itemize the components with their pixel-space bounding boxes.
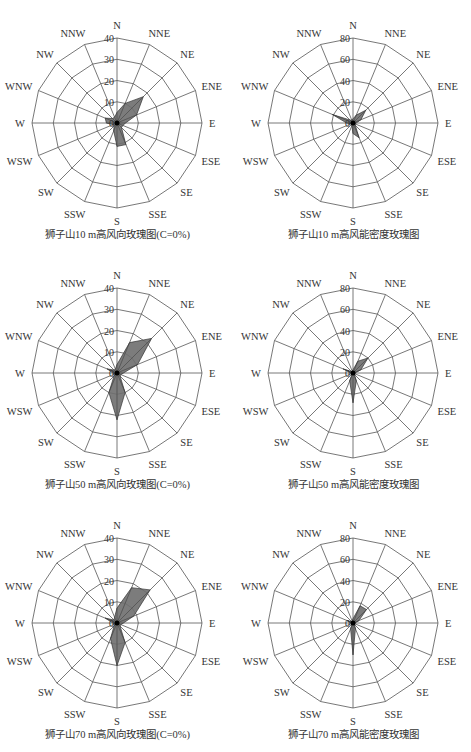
rose-chart-svg: 020406080NNNENEENEEESESESSESSSWSWWSWWWNW… — [236, 500, 471, 750]
direction-label: WSW — [243, 406, 269, 417]
direction-label: ESE — [438, 156, 457, 167]
ring-label: 0 — [109, 368, 114, 379]
direction-label: SSE — [385, 709, 403, 720]
rose-10m-energy: 020406080NNNENEENEEESESESSESSSWSWWSWWWNW… — [236, 0, 471, 250]
direction-label: ENE — [438, 581, 458, 592]
direction-label: N — [113, 20, 121, 31]
direction-label: NE — [416, 299, 430, 310]
direction-label: WNW — [5, 81, 32, 92]
direction-label: NNE — [385, 278, 407, 289]
direction-label: SE — [416, 187, 428, 198]
ring-label: 20 — [104, 76, 114, 87]
direction-label: ESE — [438, 656, 457, 667]
direction-label: SW — [274, 187, 290, 198]
direction-label: SSW — [64, 209, 86, 220]
ring-label: 0 — [345, 368, 350, 379]
chart-caption: 狮子山50 m高风能密度玫瑰图 — [236, 476, 471, 491]
center-dot — [351, 371, 356, 376]
chart-caption: 狮子山70 m高风向玫瑰图(C=0%) — [0, 726, 235, 741]
ring-label: 0 — [109, 618, 114, 629]
direction-label: NNW — [60, 278, 85, 289]
direction-label: WNW — [5, 331, 32, 342]
direction-label: ESE — [202, 656, 221, 667]
center-dot — [351, 121, 356, 126]
direction-label: N — [349, 520, 357, 531]
center-dot — [115, 621, 120, 626]
direction-label: NW — [36, 299, 54, 310]
direction-label: WNW — [241, 581, 268, 592]
ring-label: 40 — [340, 76, 350, 87]
direction-label: W — [15, 618, 25, 629]
ring-label: 40 — [340, 576, 350, 587]
direction-label: WSW — [7, 656, 33, 667]
ring-label: 40 — [104, 283, 114, 294]
rose-chart-svg: 020406080NNNENEENEEESESESSESSSWSWWSWWWNW… — [236, 0, 471, 250]
direction-label: NNW — [60, 528, 85, 539]
direction-label: ESE — [202, 406, 221, 417]
direction-label: ESE — [202, 156, 221, 167]
rose-chart-svg: 020406080NNNENEENEEESESESSESSSWSWWSWWWNW… — [236, 250, 471, 500]
direction-label: SW — [38, 187, 54, 198]
ring-label: 20 — [340, 347, 350, 358]
ring-label: 20 — [340, 597, 350, 608]
rose-50m-energy: 020406080NNNENEENEEESESESSESSSWSWWSWWWNW… — [236, 250, 471, 500]
direction-label: E — [209, 368, 215, 379]
ring-label: 10 — [104, 597, 114, 608]
direction-label: W — [251, 368, 261, 379]
direction-label: E — [445, 368, 451, 379]
chart-caption: 狮子山10 m高风向玫瑰图(C=0%) — [0, 226, 235, 241]
direction-label: SSW — [300, 209, 322, 220]
ring-label: 40 — [104, 33, 114, 44]
direction-label: SSW — [300, 459, 322, 470]
direction-label: NW — [272, 549, 290, 560]
direction-label: E — [209, 618, 215, 629]
direction-label: SE — [180, 187, 192, 198]
direction-label: NNE — [385, 28, 407, 39]
direction-label: W — [15, 368, 25, 379]
direction-label: N — [113, 520, 121, 531]
ring-label: 20 — [340, 97, 350, 108]
ring-label: 60 — [340, 304, 350, 315]
rose-chart-svg: 010203040NNNENEENEEESESESSESSSWSWWSWWWNW… — [0, 250, 235, 500]
direction-label: SSW — [64, 709, 86, 720]
direction-label: NE — [416, 49, 430, 60]
ring-label: 60 — [340, 554, 350, 565]
ring-label: 30 — [104, 554, 114, 565]
direction-label: N — [349, 20, 357, 31]
ring-label: 80 — [340, 33, 350, 44]
direction-label: N — [349, 270, 357, 281]
direction-label: NE — [416, 549, 430, 560]
direction-label: ENE — [438, 331, 458, 342]
direction-label: SSE — [149, 209, 167, 220]
direction-label: SSE — [149, 459, 167, 470]
direction-label: NNE — [149, 28, 171, 39]
ring-label: 0 — [345, 618, 350, 629]
rose-70m-energy: 020406080NNNENEENEEESESESSESSSWSWWSWWWNW… — [236, 500, 471, 750]
direction-label: E — [445, 118, 451, 129]
direction-label: W — [251, 118, 261, 129]
ring-label: 40 — [340, 326, 350, 337]
direction-label: NNE — [149, 528, 171, 539]
direction-label: SW — [38, 687, 54, 698]
direction-label: E — [445, 618, 451, 629]
direction-label: WSW — [243, 656, 269, 667]
direction-label: SSE — [149, 709, 167, 720]
direction-label: WSW — [7, 156, 33, 167]
rose-chart-svg: 010203040NNNENEENEEESESESSESSSWSWWSWWWNW… — [0, 500, 235, 750]
direction-label: SE — [416, 687, 428, 698]
rose-data-area — [343, 358, 368, 403]
direction-label: SE — [180, 687, 192, 698]
direction-label: ESE — [438, 406, 457, 417]
ring-label: 10 — [104, 97, 114, 108]
direction-label: E — [209, 118, 215, 129]
direction-label: NNE — [149, 278, 171, 289]
direction-label: NE — [180, 549, 194, 560]
ring-label: 20 — [104, 576, 114, 587]
direction-label: W — [251, 618, 261, 629]
direction-label: NNW — [296, 278, 321, 289]
direction-label: SW — [274, 437, 290, 448]
direction-label: SSW — [64, 459, 86, 470]
direction-label: W — [15, 118, 25, 129]
ring-label: 60 — [340, 54, 350, 65]
rose-chart-svg: 010203040NNNENEENEEESESESSESSSWSWWSWWWNW… — [0, 0, 235, 250]
